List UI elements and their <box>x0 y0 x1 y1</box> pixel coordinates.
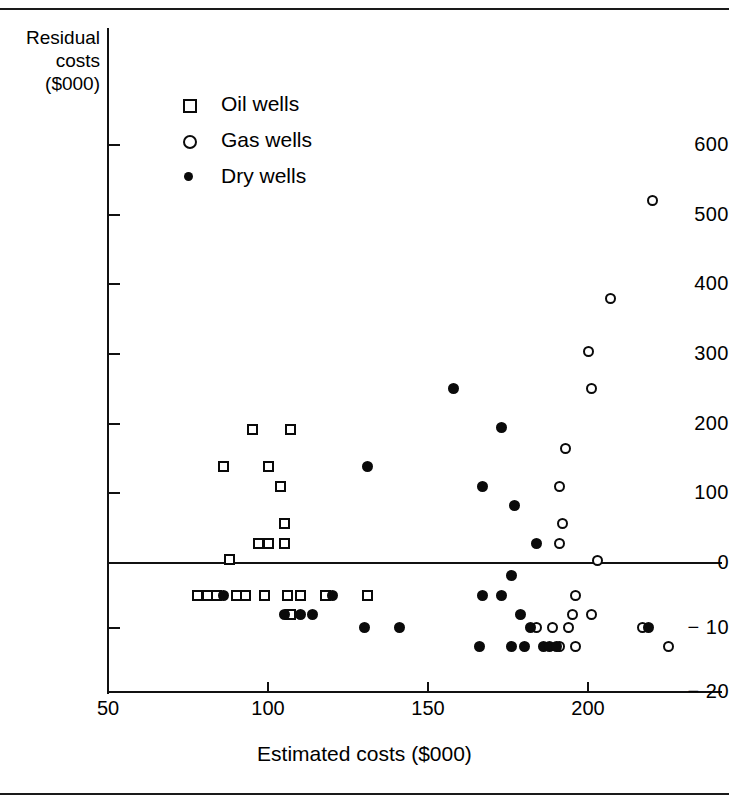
legend-marker-filled-circle-icon <box>184 172 193 181</box>
data-point-dry <box>477 590 488 601</box>
data-point-oil <box>240 590 251 601</box>
y-axis-title-line-1: Residual <box>8 26 100 49</box>
data-point-gas <box>592 555 603 566</box>
y-tick-minus10 <box>109 627 120 629</box>
data-point-dry <box>506 570 517 581</box>
y-tick-label-500: 500 <box>629 204 729 224</box>
figure-container: Residual costs ($000) Estimated costs ($… <box>0 0 729 806</box>
data-point-gas <box>547 622 558 633</box>
data-point-oil <box>275 481 286 492</box>
y-tick-label-300: 300 <box>629 343 729 363</box>
data-point-dry <box>551 641 562 652</box>
y-tick-label-0: 0 <box>629 552 729 572</box>
data-point-gas <box>557 518 568 529</box>
y-tick-minus20 <box>109 691 120 693</box>
data-point-dry <box>515 609 526 620</box>
data-point-gas <box>570 590 581 601</box>
data-point-dry <box>359 622 370 633</box>
legend-item-oil: Oil wells <box>183 86 423 122</box>
x-tick-label-150: 150 <box>383 697 473 719</box>
y-axis-title: Residual costs ($000) <box>8 26 100 95</box>
legend-item-dry: Dry wells <box>183 158 423 194</box>
data-point-oil <box>279 518 290 529</box>
data-point-gas <box>567 609 578 620</box>
y-tick-label-minus20: − 20 <box>629 681 729 701</box>
x-tick-label-100: 100 <box>223 697 313 719</box>
y-tick-400 <box>109 283 120 285</box>
y-tick-label-200: 200 <box>629 413 729 433</box>
x-tick-100 <box>267 682 269 692</box>
y-tick-300 <box>109 353 120 355</box>
data-point-gas <box>583 346 594 357</box>
data-point-dry <box>496 590 507 601</box>
data-point-gas <box>554 481 565 492</box>
data-point-dry <box>307 609 318 620</box>
data-point-dry <box>448 383 459 394</box>
scatter-plot: Residual costs ($000) Estimated costs ($… <box>0 0 729 806</box>
y-tick-label-600: 600 <box>629 134 729 154</box>
data-point-dry <box>362 461 373 472</box>
data-point-oil <box>282 590 293 601</box>
data-point-gas <box>663 641 674 652</box>
data-point-dry <box>525 622 536 633</box>
data-point-dry <box>394 622 405 633</box>
x-tick-200 <box>587 682 589 692</box>
y-tick-600 <box>109 144 120 146</box>
data-point-dry <box>218 590 229 601</box>
data-point-gas <box>647 195 658 206</box>
x-tick-label-200: 200 <box>543 697 633 719</box>
data-point-dry <box>519 641 530 652</box>
x-axis-title: Estimated costs ($000) <box>0 742 729 766</box>
legend-label: Dry wells <box>221 158 306 194</box>
y-tick-label-100: 100 <box>629 482 729 502</box>
x-tick-label-50: 50 <box>63 697 153 719</box>
data-point-dry <box>496 422 507 433</box>
y-tick-label-400: 400 <box>629 273 729 293</box>
legend-label: Oil wells <box>221 86 299 122</box>
data-point-oil <box>362 590 373 601</box>
legend-marker-open-square-icon <box>183 99 197 113</box>
data-point-gas <box>560 443 571 454</box>
data-point-gas <box>586 609 597 620</box>
data-point-gas <box>570 641 581 652</box>
data-point-dry <box>279 609 290 620</box>
data-point-dry <box>474 641 485 652</box>
y-axis-title-line-3: ($000) <box>8 72 100 95</box>
legend: Oil wellsGas wellsDry wells <box>183 86 423 194</box>
data-point-gas <box>554 538 565 549</box>
legend-item-gas: Gas wells <box>183 122 423 158</box>
data-point-gas <box>605 293 616 304</box>
x-tick-150 <box>427 682 429 692</box>
legend-marker-open-circle-icon <box>183 135 197 149</box>
data-point-oil <box>295 590 306 601</box>
data-point-oil <box>247 424 258 435</box>
data-point-dry <box>327 590 338 601</box>
data-point-oil <box>218 461 229 472</box>
y-axis-line <box>107 28 109 694</box>
data-point-gas <box>563 622 574 633</box>
data-point-oil <box>263 461 274 472</box>
y-axis-title-line-2: costs <box>8 49 100 72</box>
data-point-oil <box>259 590 270 601</box>
data-point-oil <box>279 538 290 549</box>
legend-label: Gas wells <box>221 122 312 158</box>
data-point-dry <box>506 641 517 652</box>
data-point-oil <box>285 424 296 435</box>
data-point-oil <box>224 554 235 565</box>
y-tick-200 <box>109 423 120 425</box>
data-point-dry <box>531 538 542 549</box>
data-point-dry <box>477 481 488 492</box>
data-point-dry <box>509 500 520 511</box>
data-point-gas <box>586 383 597 394</box>
y-tick-100 <box>109 492 120 494</box>
y-tick-500 <box>109 214 120 216</box>
data-point-dry <box>295 609 306 620</box>
data-point-oil <box>263 538 274 549</box>
